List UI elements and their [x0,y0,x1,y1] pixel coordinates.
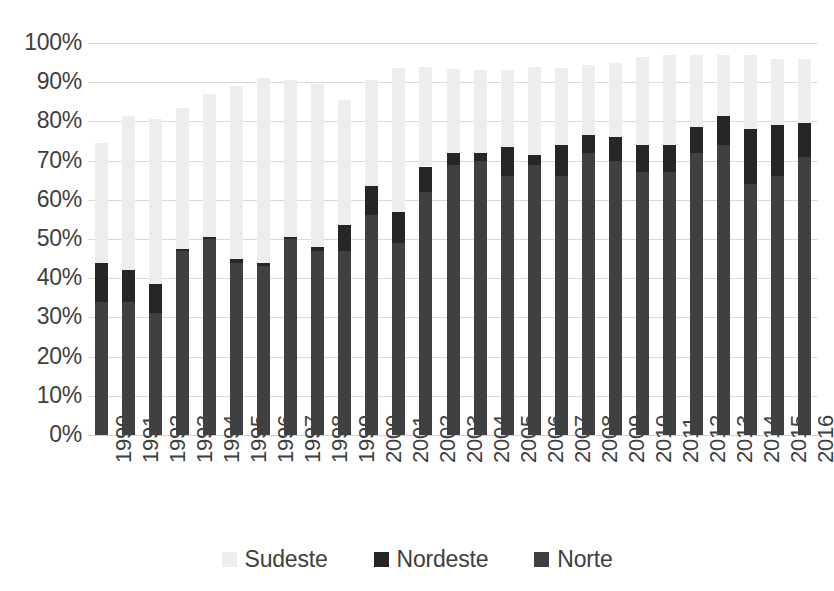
y-axis-tick-label: 70% [4,149,82,172]
bar-segment-nordeste[interactable] [447,153,460,165]
x-axis-tick-label: 2015 [786,437,812,463]
bar-segment-nordeste[interactable] [203,237,216,239]
bar-segment-nordeste[interactable] [528,155,541,165]
bar-segment-sudeste[interactable] [338,100,351,225]
bar-segment-norte[interactable] [95,302,108,435]
x-axis-tick-label: 2014 [759,437,785,463]
bar-segment-nordeste[interactable] [257,263,270,267]
x-axis-tick-label: 2008 [597,437,623,463]
x-axis-tick-label: 2007 [570,437,596,463]
bar-segment-nordeste[interactable] [501,147,514,176]
bar-segment-sudeste[interactable] [582,65,595,136]
bar-segment-sudeste[interactable] [555,68,568,144]
bar-segment-nordeste[interactable] [636,145,649,172]
y-axis-tick-label: 0% [4,423,82,446]
y-axis-tick-label: 60% [4,188,82,211]
bar-segment-nordeste[interactable] [176,249,189,251]
bar-segment-nordeste[interactable] [690,127,703,152]
bar-segment-sudeste[interactable] [230,86,243,258]
bar-segment-sudeste[interactable] [447,69,460,153]
legend-label: Nordeste [397,548,489,571]
legend-swatch-icon [374,552,389,567]
legend-item-norte[interactable]: Norte [534,548,612,571]
bar-segment-sudeste[interactable] [474,70,487,152]
bar-segment-nordeste[interactable] [798,123,811,156]
bar-segment-nordeste[interactable] [284,237,297,239]
legend-label: Sudeste [245,548,328,571]
y-axis-tick-label: 50% [4,227,82,250]
legend-item-sudeste[interactable]: Sudeste [222,548,328,571]
bar-segment-sudeste[interactable] [663,55,676,145]
bar-segment-sudeste[interactable] [284,80,297,237]
bar-segment-sudeste[interactable] [122,116,135,271]
bar-segment-nordeste[interactable] [149,284,162,313]
bar-segment-nordeste[interactable] [338,225,351,250]
y-axis-tick-label: 90% [4,70,82,93]
bar-segment-nordeste[interactable] [419,167,432,192]
x-axis-tick-label: 2003 [462,437,488,463]
bar-segment-sudeste[interactable] [311,84,324,247]
y-axis-tick-label: 80% [4,109,82,132]
bar-segment-sudeste[interactable] [149,119,162,284]
legend-item-nordeste[interactable]: Nordeste [374,548,489,571]
bar-segment-nordeste[interactable] [744,129,757,184]
bar-segment-sudeste[interactable] [636,57,649,145]
legend-swatch-icon [222,552,237,567]
bar-segment-nordeste[interactable] [230,259,243,263]
x-axis-tick-label: 2004 [489,437,515,463]
x-axis-tick-label: 1992 [165,437,191,463]
bar-segment-nordeste[interactable] [717,116,730,145]
y-axis-tick-label: 40% [4,266,82,289]
bar-segment-nordeste[interactable] [474,153,487,161]
x-axis-tick-label: 2012 [705,437,731,463]
x-axis-tick-label: 1993 [192,437,218,463]
x-axis-tick-label: 1997 [300,437,326,463]
bar-segment-sudeste[interactable] [501,70,514,146]
bar-segment-sudeste[interactable] [419,67,432,167]
bar-segment-sudeste[interactable] [690,55,703,128]
bar-segment-nordeste[interactable] [95,263,108,302]
x-axis-tick-label: 1994 [219,437,245,463]
bar-segment-nordeste[interactable] [663,145,676,172]
x-axis: 1990199119921993199419951996199719981999… [88,437,818,537]
bar-segment-sudeste[interactable] [176,108,189,249]
bar-segment-sudeste[interactable] [392,68,405,211]
bar-segment-sudeste[interactable] [528,67,541,155]
x-axis-tick-label: 1991 [138,437,164,463]
x-axis-tick-label: 1990 [111,437,137,463]
x-axis-tick-label: 1999 [354,437,380,463]
bar-segment-sudeste[interactable] [717,55,730,116]
x-axis-tick-label: 2001 [408,437,434,463]
bar-segment-sudeste[interactable] [609,63,622,137]
x-axis-tick-label: 2010 [651,437,677,463]
chart-legend: SudesteNordesteNorte [0,548,834,571]
x-axis-tick-label: 2006 [543,437,569,463]
bar-segment-nordeste[interactable] [365,186,378,215]
legend-label: Norte [557,548,612,571]
bar-group[interactable] [95,43,108,435]
x-axis-tick-label: 1998 [327,437,353,463]
bar-segment-sudeste[interactable] [95,143,108,263]
bar-segment-nordeste[interactable] [771,125,784,176]
bar-segment-nordeste[interactable] [122,270,135,301]
bar-segment-sudeste[interactable] [257,78,270,262]
bar-segment-nordeste[interactable] [582,135,595,153]
bar-segment-sudeste[interactable] [203,94,216,237]
bar-segment-nordeste[interactable] [555,145,568,176]
x-axis-tick-label: 1996 [273,437,299,463]
x-axis-tick-label: 2016 [813,437,834,463]
bar-segment-sudeste[interactable] [365,80,378,186]
bar-segment-nordeste[interactable] [392,212,405,243]
x-axis-tick-label: 2002 [435,437,461,463]
legend-swatch-icon [534,552,549,567]
x-axis-tick-label: 2009 [624,437,650,463]
bar-segment-sudeste[interactable] [744,55,757,129]
y-axis-tick-label: 20% [4,345,82,368]
bar-segment-nordeste[interactable] [609,137,622,161]
stacked-bar-chart: 0%10%20%30%40%50%60%70%80%90%100% 199019… [0,0,834,591]
x-axis-tick-label: 2011 [678,437,704,463]
x-axis-tick-label: 2000 [381,437,407,463]
bar-segment-sudeste[interactable] [771,59,784,126]
bar-segment-sudeste[interactable] [798,59,811,124]
bar-segment-nordeste[interactable] [311,247,324,251]
